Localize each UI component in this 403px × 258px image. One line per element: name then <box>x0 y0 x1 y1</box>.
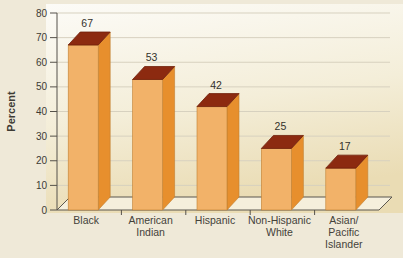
y-tick-label-60: 60 <box>36 57 48 68</box>
bar-chart-figure: 01020304050607080Percent6753422517BlackA… <box>0 0 403 258</box>
y-tick-label-0: 0 <box>41 205 47 216</box>
bar-asian-pacific-islander <box>326 155 368 210</box>
y-tick-label-70: 70 <box>36 32 48 43</box>
category-label-hispanic: Hispanic <box>195 214 235 226</box>
value-label-non-hispanic-white: 25 <box>275 120 287 132</box>
category-label-black: Black <box>73 214 99 226</box>
y-tick-label-80: 80 <box>36 8 48 19</box>
bar-side-face <box>98 32 110 210</box>
category-label-non-hispanic-white: White <box>266 226 293 238</box>
category-label-asian-pacific-islander: Asian/ <box>329 214 358 226</box>
y-tick-label-30: 30 <box>36 131 48 142</box>
bar-front-face <box>197 107 227 210</box>
y-tick-label-20: 20 <box>36 155 48 166</box>
y-axis-title: Percent <box>5 91 17 132</box>
bar-front-face <box>133 79 163 210</box>
category-label-american-indian: Indian <box>136 226 165 238</box>
y-tick-label-10: 10 <box>36 180 48 191</box>
chart-canvas: 01020304050607080Percent6753422517BlackA… <box>0 0 403 258</box>
y-tick-label-40: 40 <box>36 106 48 117</box>
bar-black <box>68 32 110 210</box>
y-tick-label-50: 50 <box>36 81 48 92</box>
bar-front-face <box>261 148 291 210</box>
bar-non-hispanic-white <box>261 135 303 210</box>
value-label-american-indian: 53 <box>146 51 158 63</box>
category-label-asian-pacific-islander: Pacific <box>328 226 359 238</box>
bar-front-face <box>68 45 98 210</box>
value-label-black: 67 <box>81 17 93 29</box>
bar-hispanic <box>197 94 239 210</box>
bar-side-face <box>163 66 175 210</box>
bar-side-face <box>227 94 239 210</box>
bar-front-face <box>326 168 356 210</box>
value-label-asian-pacific-islander: 17 <box>339 140 351 152</box>
category-label-american-indian: American <box>128 214 173 226</box>
value-label-hispanic: 42 <box>210 79 222 91</box>
category-label-asian-pacific-islander: Islander <box>325 238 363 250</box>
category-label-non-hispanic-white: Non-Hispanic <box>248 214 311 226</box>
bar-american-indian <box>133 66 175 210</box>
